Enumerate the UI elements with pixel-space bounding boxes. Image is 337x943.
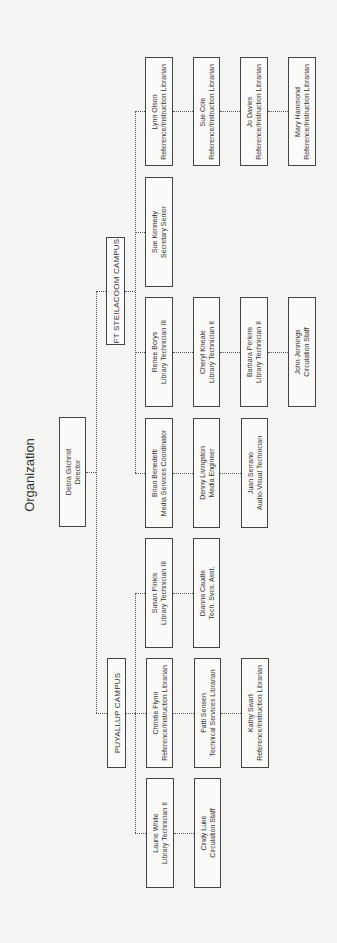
connector — [173, 593, 193, 594]
connector — [135, 352, 145, 353]
person-name: Brian Benedetti — [150, 430, 159, 516]
person-name: Cheryl Kneale — [198, 321, 207, 383]
person-role: Library Technician III — [159, 320, 168, 384]
person-name: Christie Flynn — [151, 665, 160, 761]
director-box: Debra Gilchrist Director — [59, 417, 86, 527]
connector — [268, 352, 288, 353]
person-box: Sue Cole Reference/Instruction Librarian — [193, 57, 220, 166]
connector — [221, 713, 241, 714]
chart-title-text: Organization — [22, 438, 37, 512]
person-box: Cheryl Kneale Library Technician II — [193, 297, 220, 407]
person-role: Circulation Staff — [302, 327, 311, 376]
person-box: Juan Serrano Audio-Visual Technician — [241, 418, 268, 528]
person-box: Laurie White Library Technician II — [146, 778, 174, 888]
person-role: Media Engineer — [207, 446, 216, 500]
person-name: Mary Hammond — [293, 64, 302, 160]
connector — [135, 713, 146, 714]
person-role: Circulation Staff — [208, 808, 217, 857]
person-box: Dianna Caudle Tech. Svcs. Asst. — [193, 538, 220, 648]
connector — [268, 111, 288, 112]
person-name: Renee Borys — [150, 320, 159, 384]
person-name: Cindy Luke — [199, 808, 208, 857]
person-box: Jo Davies Reference/Instruction Libraria… — [240, 57, 268, 166]
person-name: Dianna Caudle — [198, 567, 207, 620]
person-role: Reference/Instruction Librarian — [255, 665, 264, 761]
person-box: Renee Borys Library Technician III — [145, 297, 173, 407]
person-name: Patti Sensen — [199, 669, 208, 756]
person-box: John Jennings Circulation Staff — [288, 297, 316, 407]
connector — [125, 291, 135, 292]
connector — [220, 473, 241, 474]
director-role: Director — [73, 449, 82, 495]
person-role: Reference/Instruction Librarian — [254, 64, 263, 160]
person-box: Patti Sensen Technical Services Libraria… — [194, 658, 221, 768]
person-name: Juan Serrano — [246, 436, 255, 510]
person-role: Library Technician II — [254, 321, 263, 383]
person-box: Sue Kennedy Secretary Senior — [145, 177, 173, 287]
person-name: Lynn Olson — [150, 64, 159, 160]
person-name: Denny Livingston — [198, 446, 207, 500]
director-name: Debra Gilchrist — [64, 449, 73, 495]
connector — [173, 352, 193, 353]
person-name: Barbara Perkins — [245, 321, 254, 383]
person-role: Audio-Visual Technician — [255, 436, 264, 510]
connector — [173, 713, 194, 714]
connector — [96, 713, 107, 714]
person-name: Kathy Swart — [246, 665, 255, 761]
person-role: Library Technician II — [207, 321, 216, 383]
person-role: Reference/Instruction Librarian — [159, 64, 168, 160]
connector — [135, 232, 145, 233]
person-role: Technical Services Librarian — [208, 669, 217, 756]
campus-name: FT STEILACOOM CAMPUS — [111, 239, 120, 344]
connector — [135, 593, 145, 594]
connector — [96, 291, 97, 713]
connector — [220, 352, 240, 353]
connector — [220, 111, 240, 112]
person-box: Christie Flynn Reference/Instruction Lib… — [146, 658, 173, 768]
connector — [96, 291, 106, 292]
connector — [135, 111, 145, 112]
person-box: Brian Benedetti Media Services Coordinat… — [145, 418, 173, 528]
connector — [126, 713, 135, 714]
campus-box-puyallup: PUYALLUP CAMPUS — [107, 658, 126, 768]
person-role: Reference/Instruction Librarian — [302, 64, 311, 160]
connector — [135, 111, 136, 473]
campus-box-ft-steilacoom: FT STEILACOOM CAMPUS — [106, 237, 125, 345]
person-box: Kathy Swart Reference/Instruction Librar… — [241, 658, 269, 768]
person-name: Sue Cole — [198, 64, 207, 160]
person-role: Library Technician III — [159, 561, 168, 625]
person-box: Barbara Perkins Library Technician II — [240, 297, 268, 407]
person-name: Sue Kennedy — [150, 206, 159, 258]
connector — [174, 833, 194, 834]
connector — [135, 833, 146, 834]
person-role: Tech. Svcs. Asst. — [207, 567, 216, 620]
person-role: Reference/Instruction Librarian — [207, 64, 216, 160]
connector — [86, 472, 96, 473]
person-box: Cindy Luke Circulation Staff — [194, 778, 221, 888]
person-box: Susan Pinkis Library Technician III — [145, 538, 173, 648]
person-name: Susan Pinkis — [150, 561, 159, 625]
person-role: Library Technician II — [160, 802, 169, 864]
person-box: Lynn Olson Reference/Instruction Librari… — [145, 57, 173, 166]
person-name: John Jennings — [293, 327, 302, 376]
person-role: Media Services Coordinator — [159, 430, 168, 516]
person-box: Denny Livingston Media Engineer — [193, 418, 220, 528]
chart-title: Organization — [16, 430, 42, 520]
campus-name: PUYALLUP CAMPUS — [112, 673, 121, 754]
person-name: Jo Davies — [245, 64, 254, 160]
person-role: Reference/Instruction Librarian — [160, 665, 169, 761]
person-box: Mary Hammond Reference/Instruction Libra… — [288, 57, 316, 166]
person-name: Laurie White — [151, 802, 160, 864]
person-role: Secretary Senior — [159, 206, 168, 258]
connector — [173, 111, 193, 112]
org-chart: Organization Debra Gilchrist Director FT… — [0, 0, 337, 943]
connector — [135, 473, 145, 474]
connector — [173, 473, 193, 474]
